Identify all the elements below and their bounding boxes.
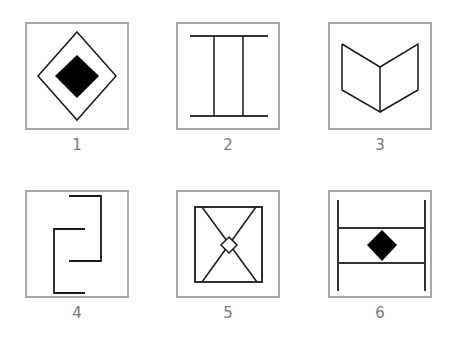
figure-5-label: 5 bbox=[176, 304, 280, 322]
ladder-diamond-icon bbox=[330, 192, 430, 296]
figure-3-label: 3 bbox=[328, 136, 432, 154]
figure-2-frame bbox=[176, 22, 280, 130]
figure-6-label: 6 bbox=[328, 304, 432, 322]
figure-1-frame bbox=[25, 22, 129, 130]
figure-3-frame bbox=[328, 22, 432, 130]
figure-2-label: 2 bbox=[176, 136, 280, 154]
nested-diamond-icon bbox=[27, 24, 127, 128]
figure-6-frame bbox=[328, 190, 432, 298]
open-book-icon bbox=[330, 24, 430, 128]
interlocking-brackets-icon bbox=[27, 192, 127, 296]
figure-4-label: 4 bbox=[25, 304, 129, 322]
hourglass-diamond-icon bbox=[178, 192, 278, 296]
figure-5-frame bbox=[176, 190, 280, 298]
figure-4-frame bbox=[25, 190, 129, 298]
ladder-icon bbox=[178, 24, 278, 128]
figure-1-label: 1 bbox=[25, 136, 129, 154]
